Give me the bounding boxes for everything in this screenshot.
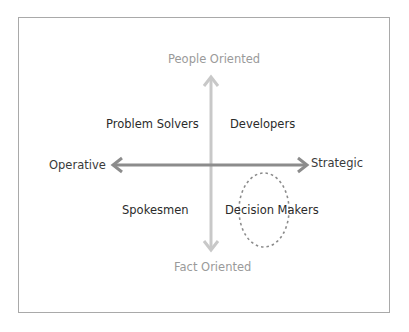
axis-label-left: Operative bbox=[49, 158, 106, 172]
axis-label-right: Strategic bbox=[311, 156, 363, 170]
quadrant-bottom-left: Spokesmen bbox=[122, 203, 189, 217]
axis-label-top: People Oriented bbox=[168, 52, 260, 66]
quadrant-top-left: Problem Solvers bbox=[106, 117, 199, 131]
quadrant-bottom-right: Decision Makers bbox=[225, 203, 319, 217]
quadrant-top-right: Developers bbox=[230, 117, 295, 131]
axis-label-bottom: Fact Oriented bbox=[174, 260, 251, 274]
